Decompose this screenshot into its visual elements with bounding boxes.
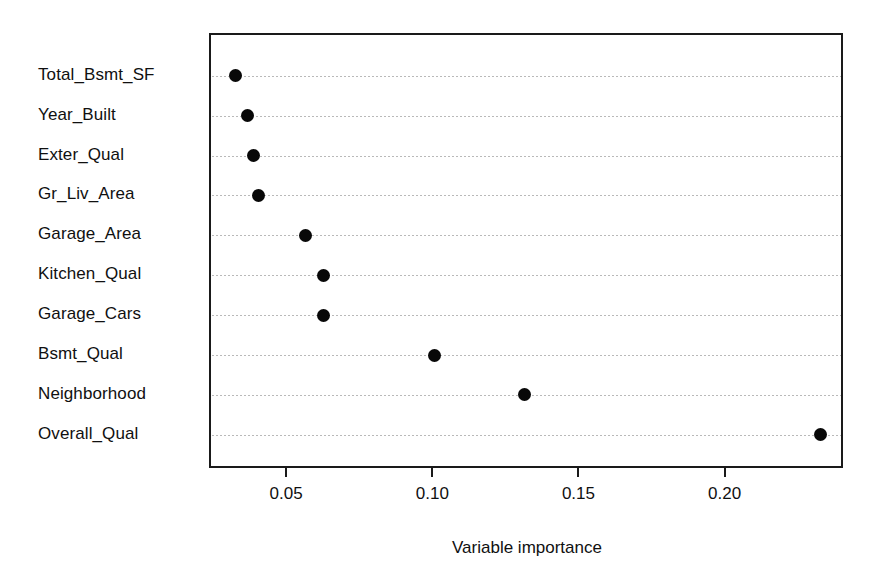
cropped-title-text [0,0,871,3]
gridline [211,156,841,157]
gridline [211,355,841,356]
x-tick-label: 0.15 [562,484,595,503]
data-point [317,309,330,322]
data-point [299,229,312,242]
y-axis-label-kitchen-qual: Kitchen_Qual [38,265,141,282]
plot-area [209,33,843,468]
y-axis-label-overall-qual: Overall_Qual [38,424,138,441]
x-tick-mark [431,468,433,477]
plot-inner [211,35,841,466]
data-point [518,388,531,401]
data-point [229,69,242,82]
data-point [241,109,254,122]
data-point [317,269,330,282]
x-tick-label: 0.10 [416,484,449,503]
gridline [211,116,841,117]
y-axis-label-garage-area: Garage_Area [38,225,141,242]
y-axis-label-year-built: Year_Built [38,105,116,122]
x-tick-label: 0.05 [270,484,303,503]
x-tick-mark [724,468,726,477]
data-point [428,349,441,362]
y-axis-label-exter-qual: Exter_Qual [38,145,124,162]
x-tick-mark [285,468,287,477]
variable-importance-dot-plot: Total_Bsmt_SFYear_BuiltExter_QualGr_Liv_… [0,0,871,580]
x-tick-label: 0.20 [708,484,741,503]
gridline [211,315,841,316]
y-axis-label-bsmt-qual: Bsmt_Qual [38,345,123,362]
y-axis-label-total-bsmt-sf: Total_Bsmt_SF [38,65,155,82]
gridline [211,275,841,276]
gridline [211,435,841,436]
y-axis-label-neighborhood: Neighborhood [38,384,146,401]
gridline [211,76,841,77]
data-point [814,428,827,441]
gridline [211,195,841,196]
y-axis-label-gr-liv-area: Gr_Liv_Area [38,185,135,202]
y-axis-label-garage-cars: Garage_Cars [38,305,141,322]
data-point [247,149,260,162]
x-axis-title-text: Variable importance [452,538,602,558]
x-axis-title: Variable importance [0,538,871,558]
data-point [252,189,265,202]
x-tick-mark [577,468,579,477]
